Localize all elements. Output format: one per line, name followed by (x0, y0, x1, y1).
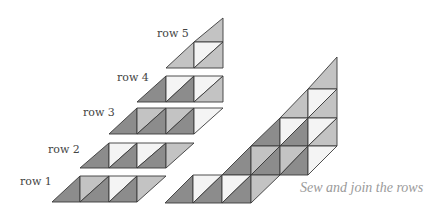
row-label: row 1 (20, 175, 52, 188)
row-label: row 5 (157, 27, 189, 40)
triangle-patch (194, 108, 223, 134)
quilt-row-2 (80, 143, 194, 168)
row-label: row 2 (48, 143, 80, 156)
quilt-row-1 (52, 176, 166, 202)
quilt-row-3 (109, 108, 223, 134)
row-label: row 3 (83, 106, 115, 119)
triangle-patch (194, 18, 223, 42)
quilt-row-4 (137, 76, 223, 102)
triangle-patch (165, 175, 193, 203)
triangle-patch (166, 42, 194, 68)
triangle-patch (308, 146, 337, 175)
separate-rows (52, 18, 223, 202)
triangle-patch (308, 57, 337, 89)
triangle-patch (137, 176, 166, 202)
caption: Sew and join the rows (300, 180, 423, 196)
triangle-patch (52, 176, 80, 202)
triangle-patch (80, 143, 109, 168)
triangle-patch (222, 146, 251, 175)
triangle-patch (166, 143, 194, 168)
triangle-patch (251, 175, 280, 203)
quilt-row-5 (166, 18, 223, 68)
triangle-patch (280, 89, 308, 118)
triangle-patch (251, 118, 280, 146)
row-label: row 4 (117, 71, 149, 84)
